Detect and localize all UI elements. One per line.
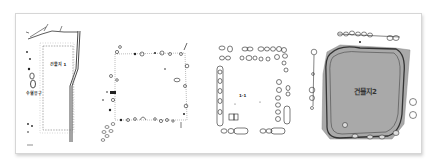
site-plan-3-drawing: 1-1 <box>200 14 300 155</box>
site-plan-1: 건물지 1 수혈유구 <box>20 14 95 153</box>
plan-4-label: 건물지2 <box>354 87 377 96</box>
site-plan-4-drawing: 건물지2 <box>300 14 422 155</box>
site-plan-2 <box>95 14 200 153</box>
site-plan-3: 1-1 <box>200 14 300 153</box>
site-plan-1-drawing: 건물지 1 수혈유구 <box>20 14 95 155</box>
site-plan-2-drawing <box>95 14 200 155</box>
site-plan-4: 건물지2 <box>300 14 422 153</box>
plan-1-sublabel: 수혈유구 <box>26 90 42 96</box>
plan-1-label: 건물지 1 <box>50 61 66 67</box>
plan-3-label: 1-1 <box>239 93 246 98</box>
figure-frame: 건물지 1 수혈유구 <box>15 13 422 154</box>
